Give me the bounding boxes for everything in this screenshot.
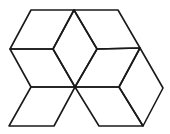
rhombus-mid-left [10,49,75,87]
rhombus-bottom-right [75,87,143,126]
rhombus-top-center [53,10,97,87]
rhombus-bottom-left [9,87,75,126]
rhombus-tessellation-diagram [0,0,170,134]
rhombus-far-right [119,48,163,126]
rhombus-top-right [74,10,140,49]
